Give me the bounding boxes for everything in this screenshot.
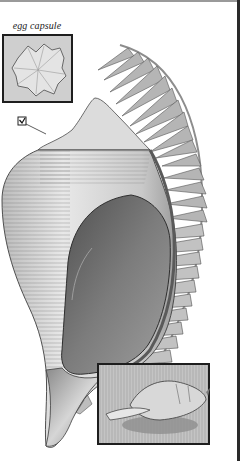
live-animal-inset [98, 364, 210, 444]
egg-capsule-caption: egg capsule [4, 20, 70, 31]
whelk-illustration [0, 0, 240, 461]
illustration-page: egg capsule [0, 0, 240, 461]
egg-capsule-inset [3, 35, 72, 102]
checkbox-marker [18, 117, 46, 134]
